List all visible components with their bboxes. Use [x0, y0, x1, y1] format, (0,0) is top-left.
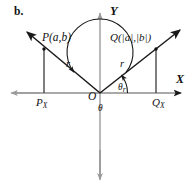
figure-canvas	[0, 0, 193, 185]
point-p-dot	[42, 47, 45, 50]
y-axis-label: Y	[110, 5, 118, 18]
point-q-foot-label: QX	[152, 97, 165, 110]
point-q-foot-subscript: X	[160, 101, 165, 110]
point-q-dot	[154, 47, 157, 50]
radius-right-label: r	[120, 59, 124, 70]
point-q-label: Q(|a|,|b|)	[110, 32, 151, 43]
x-axis-label: X	[176, 73, 184, 85]
radius-left-label: r	[66, 59, 70, 70]
point-p-label: P(a,b)	[42, 32, 71, 44]
reference-angle-subscript: r	[123, 85, 126, 94]
point-p-foot-label: PX	[36, 97, 47, 110]
theta-angle-label: θ	[98, 104, 103, 114]
point-p-foot-base: P	[36, 96, 43, 108]
origin-label: O	[88, 91, 96, 103]
panel-label: b.	[14, 6, 24, 18]
point-p-foot-subscript: X	[43, 101, 48, 110]
point-q-foot-base: Q	[152, 96, 160, 108]
reference-angle-label: θr	[118, 83, 126, 94]
math-figure-polar-reference-angle: b. Y X P(a,b) Q(|a|,|b|) O PX QX r r θ θ…	[0, 0, 193, 185]
